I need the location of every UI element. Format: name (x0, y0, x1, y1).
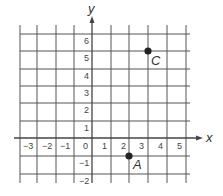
y-tick-label: −1 (79, 159, 89, 168)
x-tick-label: 2 (121, 142, 126, 151)
y-tick-label: 4 (84, 72, 89, 81)
y-axis-label: y (88, 2, 95, 15)
y-tick-label: 1 (84, 124, 89, 133)
grid-lines (20, 25, 190, 183)
y-tick-label: 5 (84, 54, 89, 63)
x-tick-label: −2 (42, 142, 52, 151)
x-tick-label: 0 (83, 142, 88, 151)
y-axis-arrow-icon (90, 16, 95, 23)
point-c-label: C (151, 54, 160, 67)
axes (14, 16, 203, 183)
y-tick-label: 3 (84, 89, 89, 98)
x-tick-label: 1 (102, 142, 107, 151)
x-tick-label: 4 (158, 142, 163, 151)
point-a-label: A (133, 158, 142, 171)
x-axis-label: x (206, 131, 213, 144)
x-axis-arrow-icon (196, 136, 203, 141)
y-tick-label: 2 (84, 106, 89, 115)
x-tick-label: −1 (60, 142, 70, 151)
x-tick-label: 5 (177, 142, 182, 151)
y-tick-label: −2 (79, 177, 89, 186)
x-tick-label: −3 (23, 142, 33, 151)
x-tick-label: 3 (139, 142, 144, 151)
point-a-marker (125, 152, 132, 159)
y-tick-label: 6 (84, 37, 89, 46)
coordinate-grid (0, 0, 223, 196)
